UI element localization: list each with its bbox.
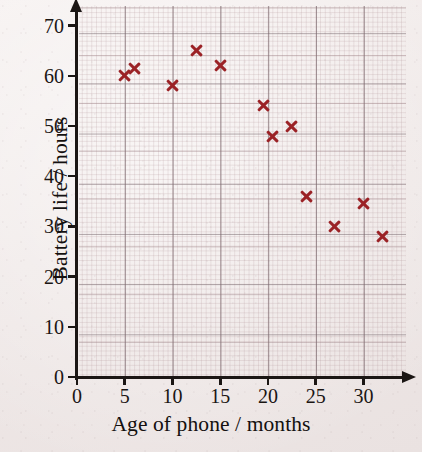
data-point	[356, 196, 371, 211]
data-point	[265, 129, 280, 144]
data-point	[375, 229, 390, 244]
x-tick-label-10: 10	[153, 386, 193, 406]
data-point	[284, 119, 299, 134]
data-point	[256, 98, 271, 113]
x-axis-title: Age of phone / months	[0, 412, 422, 437]
x-tick-20	[267, 376, 270, 385]
data-point	[213, 58, 228, 73]
x-tick-0	[76, 376, 79, 385]
data-point	[299, 189, 314, 204]
x-tick-label-15: 15	[200, 386, 240, 406]
x-tick-5	[123, 376, 126, 385]
x-tick-10	[171, 376, 174, 385]
data-point	[189, 43, 204, 58]
x-tick-25	[314, 376, 317, 385]
x-tick-15	[219, 376, 222, 385]
x-tick-label-5: 5	[105, 386, 145, 406]
x-tick-label-25: 25	[296, 386, 336, 406]
data-point	[327, 219, 342, 234]
scatter-chart-figure: 010203040506070 051015202530 Age of phon…	[0, 0, 422, 452]
data-point	[165, 78, 180, 93]
y-axis-line	[75, 8, 78, 380]
x-tick-label-20: 20	[248, 386, 288, 406]
x-tick-label-30: 30	[344, 386, 384, 406]
x-axis-arrow-icon	[402, 371, 416, 383]
data-point	[127, 61, 142, 76]
x-tick-30	[362, 376, 365, 385]
y-axis-title: Battery life / hours	[48, 0, 73, 401]
